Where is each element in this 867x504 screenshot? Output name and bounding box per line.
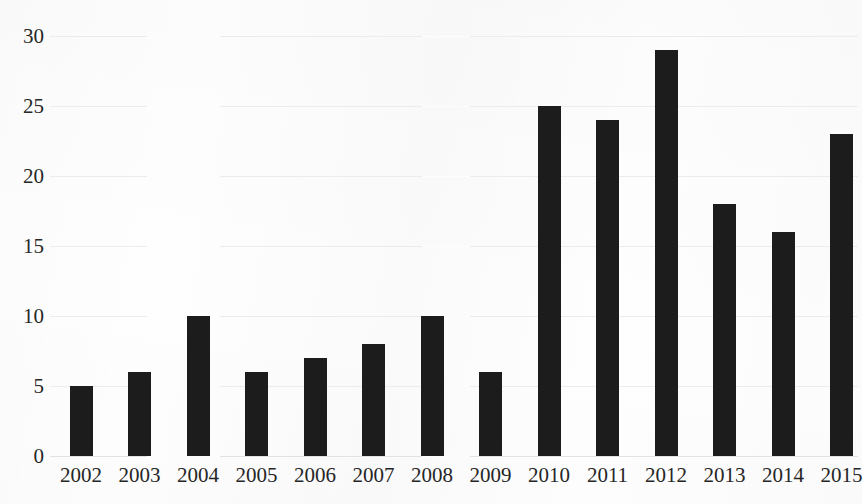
y-tick-label: 15	[23, 234, 44, 258]
y-tick-label: 0	[34, 444, 45, 468]
x-tick-2010: 2010	[518, 464, 580, 487]
y-tick-10: 10	[0, 306, 44, 327]
bar-2015	[830, 134, 853, 456]
bar-2009	[479, 372, 502, 456]
y-tick-label: 10	[23, 304, 44, 328]
y-tick-0: 0	[0, 446, 44, 467]
bar-2011	[596, 120, 619, 456]
bar-2014	[772, 232, 795, 456]
y-tick-label: 20	[23, 164, 44, 188]
x-tick-2012: 2012	[635, 464, 697, 487]
bar-2008	[421, 316, 444, 456]
y-tick-25: 25	[0, 96, 44, 117]
x-axis: 2002200320042005200620072008200920102011…	[50, 464, 858, 498]
bar-2010	[538, 106, 561, 456]
x-tick-2015: 2015	[811, 464, 867, 487]
y-tick-label: 25	[23, 94, 44, 118]
bar-2005	[245, 372, 268, 456]
x-tick-2014: 2014	[752, 464, 814, 487]
y-tick-30: 30	[0, 26, 44, 47]
y-tick-5: 5	[0, 376, 44, 397]
x-tick-2011: 2011	[577, 464, 639, 487]
bar-2004	[187, 316, 210, 456]
bars-layer	[50, 30, 858, 456]
y-tick-label: 5	[34, 374, 45, 398]
x-tick-2004: 2004	[167, 464, 229, 487]
gridline-0-baseline	[50, 456, 858, 457]
bar-2012	[655, 50, 678, 456]
x-tick-2008: 2008	[401, 464, 463, 487]
x-tick-2005: 2005	[226, 464, 288, 487]
x-tick-2002: 2002	[50, 464, 112, 487]
x-tick-2013: 2013	[694, 464, 756, 487]
x-tick-2006: 2006	[284, 464, 346, 487]
bar-2013	[713, 204, 736, 456]
plot-area	[50, 30, 858, 456]
bar-2007	[362, 344, 385, 456]
y-tick-label: 30	[23, 24, 44, 48]
x-tick-2007: 2007	[343, 464, 405, 487]
bar-2006	[304, 358, 327, 456]
bar-2002	[70, 386, 93, 456]
y-tick-20: 20	[0, 166, 44, 187]
x-tick-2003: 2003	[109, 464, 171, 487]
y-tick-15: 15	[0, 236, 44, 257]
x-tick-2009: 2009	[460, 464, 522, 487]
bar-2003	[128, 372, 151, 456]
